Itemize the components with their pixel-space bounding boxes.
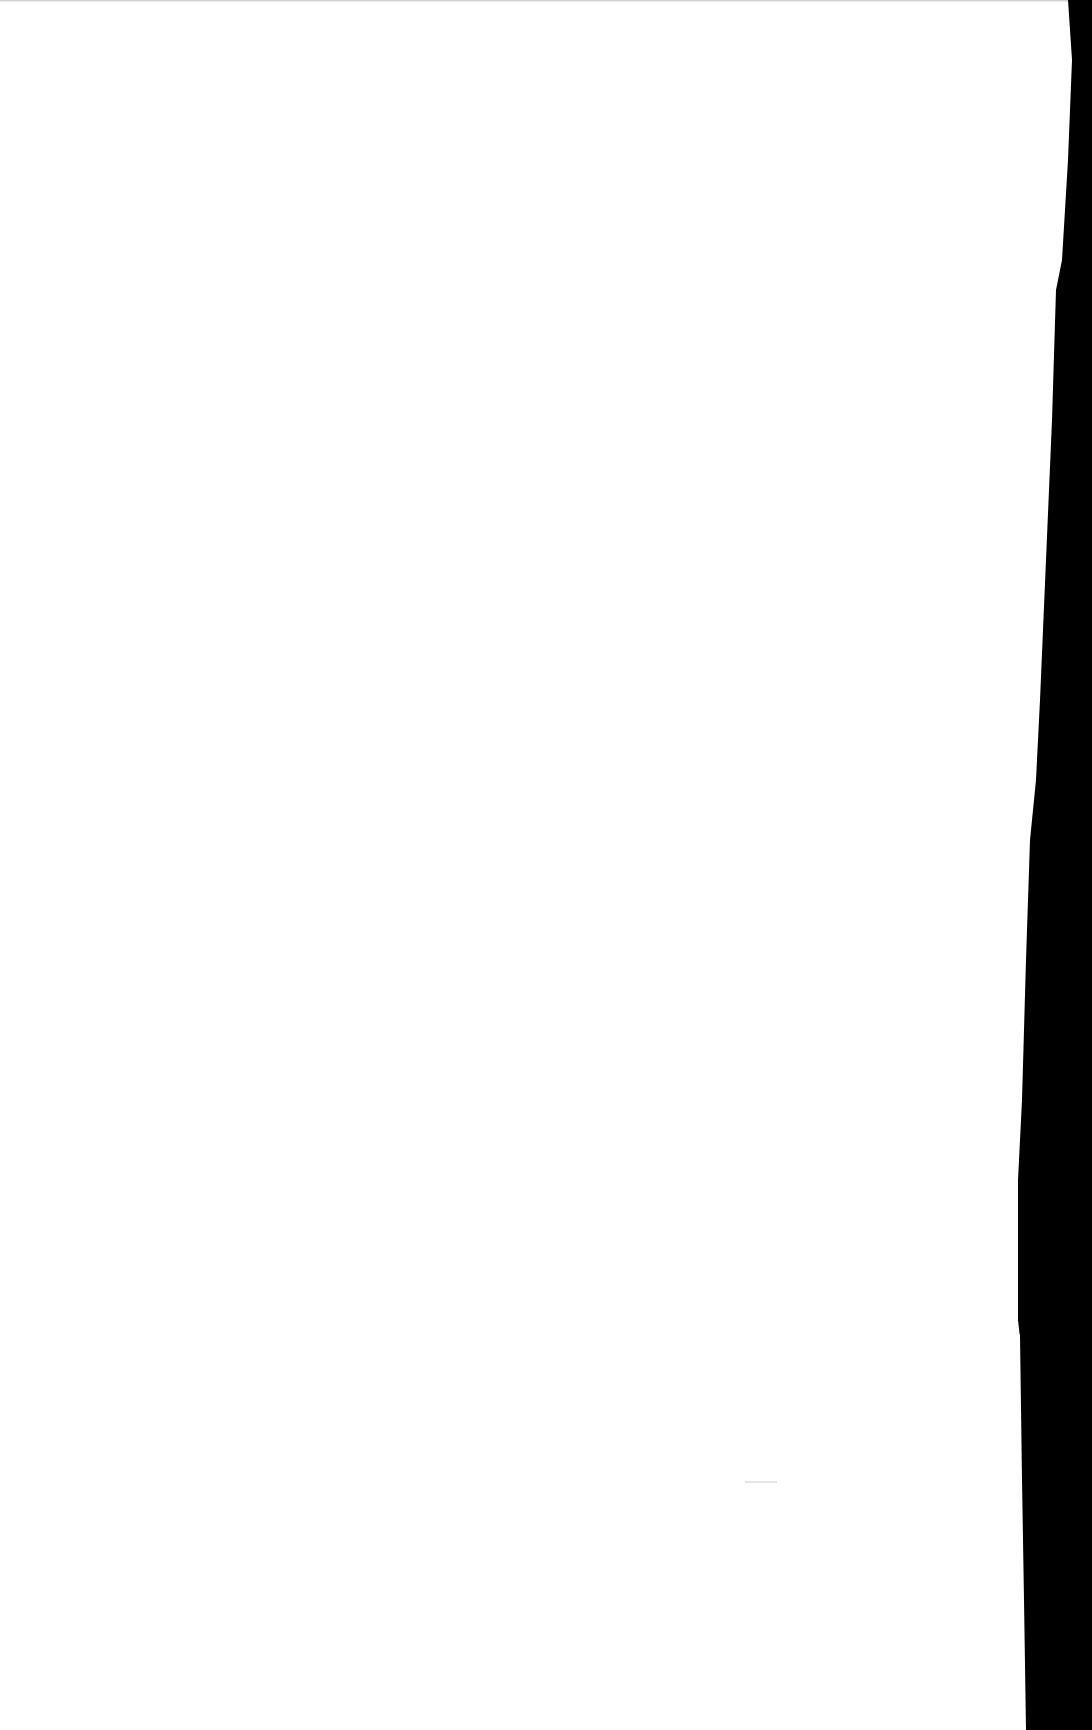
- scanner-background-edge: [0, 0, 1092, 1730]
- blank-scanned-page: [0, 0, 1092, 1730]
